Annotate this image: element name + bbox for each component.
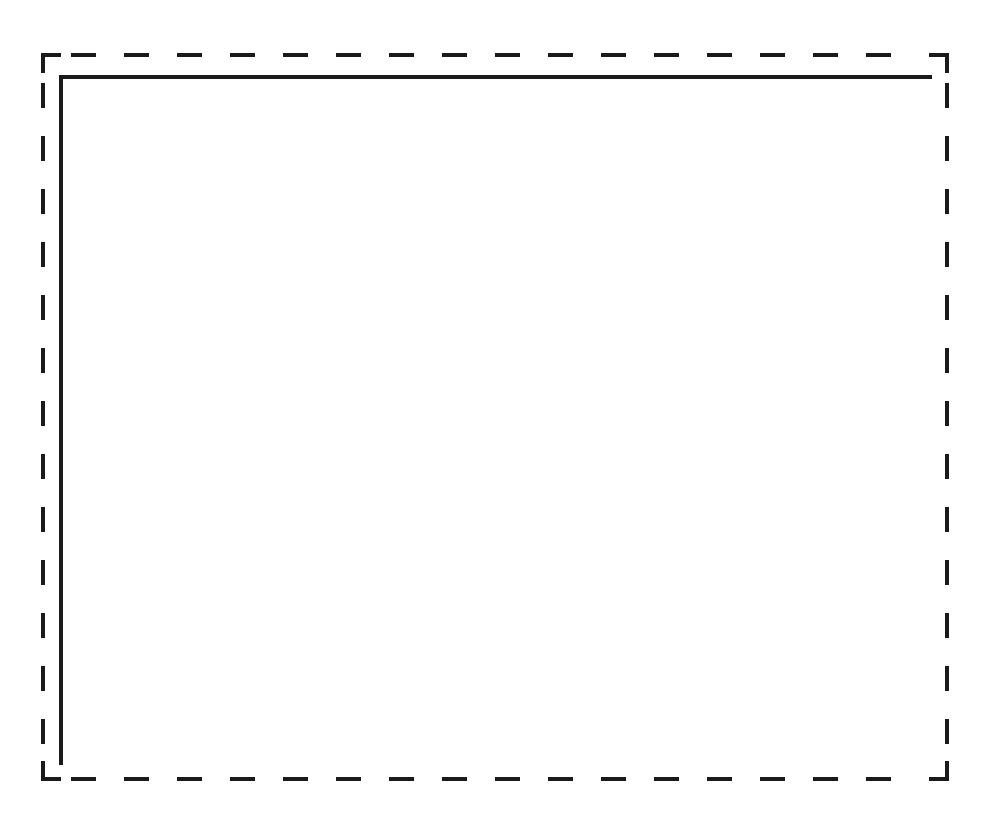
diagram-shapes	[43, 55, 947, 779]
dashed-rectangle	[43, 55, 947, 779]
diagram-svg	[0, 0, 982, 827]
